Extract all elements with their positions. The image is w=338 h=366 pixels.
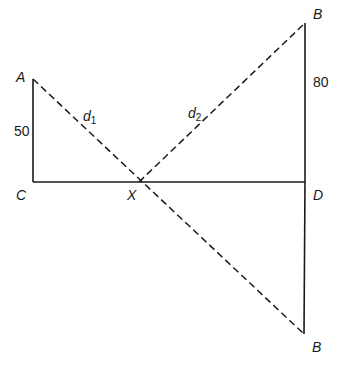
- d1-base: d: [83, 108, 91, 124]
- point-label-c: C: [16, 188, 26, 202]
- point-label-a: A: [16, 70, 25, 84]
- point-label-b-bottom: B: [312, 340, 321, 354]
- distance-label-d2: d2: [188, 106, 201, 123]
- point-label-x: X: [127, 188, 136, 202]
- length-label-ac: 50: [14, 124, 30, 138]
- d2-base: d: [188, 105, 196, 121]
- d2-subscript: 2: [196, 112, 202, 123]
- dashed-d1-a-to-b-reflection: [33, 79, 304, 334]
- length-label-bd: 80: [313, 75, 329, 89]
- d1-subscript: 1: [91, 115, 97, 126]
- point-label-d: D: [313, 188, 323, 202]
- diagram-canvas: [0, 0, 338, 366]
- segment-db-bottom: [304, 182, 305, 334]
- point-label-b-top: B: [313, 7, 322, 21]
- dashed-d2-x-to-b: [139, 23, 305, 182]
- distance-label-d1: d1: [83, 109, 96, 126]
